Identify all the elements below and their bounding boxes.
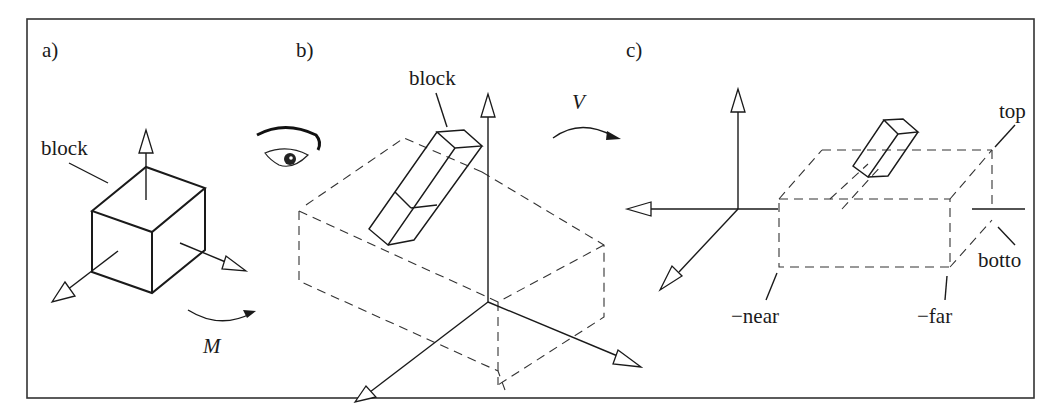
panel-a-label: a) [42, 38, 58, 62]
arrow-up-icon [481, 94, 495, 117]
panel-b: b) block [257, 38, 641, 402]
arrow-right-icon [613, 350, 641, 367]
eye-axes [627, 89, 778, 290]
near-leader-line [766, 273, 777, 300]
block-leader-line [69, 163, 108, 183]
arrow-down-left-icon [660, 266, 682, 290]
transform-label-v: V [572, 90, 587, 114]
top-leader-line [995, 125, 1015, 147]
small-block [853, 119, 918, 177]
top-label: top [999, 99, 1026, 123]
view-frustum-dashed [779, 150, 992, 267]
arrow-left-icon [627, 202, 651, 216]
near-label: −near [731, 304, 779, 328]
arrow-right-icon [222, 256, 246, 271]
panel-c-label: c) [626, 38, 642, 62]
far-label: −far [917, 304, 952, 328]
arrow-down-left-icon [52, 282, 75, 302]
block-leader-line-b [436, 93, 447, 127]
transform-label-m: M [202, 334, 222, 358]
arrow-up-icon [731, 89, 745, 112]
bottom-label: botto [978, 248, 1021, 272]
panel-c: c) [626, 38, 1026, 328]
cube [92, 167, 205, 293]
panel-a: a) block M [41, 38, 256, 358]
far-leader-line [945, 276, 947, 300]
block-label-a: block [41, 136, 88, 160]
block-label-b: block [409, 66, 456, 90]
view-volume-dashed [299, 138, 604, 390]
arrow-down-left-icon [355, 386, 376, 402]
elongated-block [369, 130, 482, 245]
transform-arrow-m [188, 310, 252, 321]
transform-arrow-v [553, 127, 613, 138]
view-transform-figure: a) block M b) [0, 0, 1055, 416]
figure-frame [27, 19, 1034, 398]
arrow-up-icon [139, 130, 153, 153]
arrowhead-icon [606, 131, 621, 140]
bottom-leader-line [998, 227, 1015, 245]
panel-b-label: b) [296, 38, 314, 62]
eye-icon [257, 128, 320, 167]
